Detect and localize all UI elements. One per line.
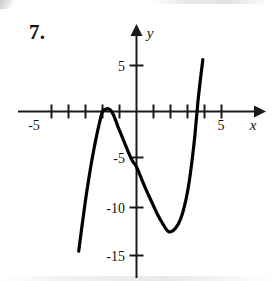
- x-axis-label: x: [249, 117, 257, 133]
- y-tick-label-neg5: -5: [113, 151, 125, 166]
- x-tick-label-pos5: 5: [218, 118, 225, 133]
- x-tick-label-neg5: -5: [28, 118, 40, 133]
- cubic-curve: [79, 60, 203, 251]
- x-axis-arrow-icon: [254, 106, 266, 118]
- graph-figure: 7. -5 5: [0, 0, 277, 281]
- y-axis-label: y: [145, 25, 154, 41]
- y-tick-label-neg10: -10: [106, 201, 125, 216]
- coordinate-plot: -5 5 5 -5 -10 -15 x y: [0, 0, 277, 281]
- y-tick-label-5: 5: [118, 59, 125, 74]
- y-tick-label-neg15: -15: [106, 249, 125, 264]
- y-axis-arrow-icon: [131, 24, 143, 36]
